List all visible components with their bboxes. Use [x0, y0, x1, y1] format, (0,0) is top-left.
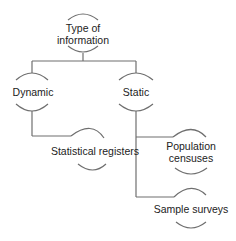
- censuses-top-arc: [173, 130, 206, 138]
- surveys-top-arc: [174, 188, 206, 197]
- root-top-arc: [68, 14, 98, 20]
- static-node-label: Static: [123, 86, 149, 98]
- static-top-arc: [119, 73, 153, 80]
- type-of-information-tree-diagram: Type of information Dynamic Static Stati…: [0, 0, 236, 241]
- registers-bottom-arc: [78, 164, 106, 170]
- censuses-label-line1: Population: [166, 140, 216, 152]
- surveys-bottom-arc: [176, 222, 206, 228]
- root-label-line2: information: [57, 34, 109, 46]
- dynamic-bottom-arc: [16, 104, 48, 111]
- registers-top-arc: [71, 128, 104, 138]
- censuses-bottom-arc: [175, 168, 207, 174]
- static-bottom-arc: [119, 104, 153, 111]
- dynamic-top-arc: [16, 73, 48, 80]
- censuses-label-line2: censuses: [166, 152, 216, 164]
- population-censuses-node-label: Population censuses: [166, 140, 216, 164]
- root-node-label: Type of information: [57, 22, 109, 46]
- statistical-registers-node-label: Statistical registers: [51, 145, 139, 157]
- dynamic-node-label: Dynamic: [13, 86, 54, 98]
- root-label-line1: Type of: [57, 22, 109, 34]
- sample-surveys-node-label: Sample surveys: [154, 203, 229, 215]
- root-bottom-arc: [68, 46, 98, 52]
